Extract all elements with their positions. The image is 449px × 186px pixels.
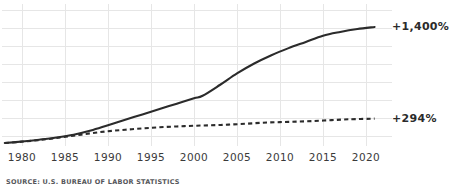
- series-line-dashed: [5, 119, 375, 143]
- x-axis-tick-label: 2010: [266, 151, 294, 163]
- x-axis-tick-label: 2005: [223, 151, 251, 163]
- x-axis-tick-label: 1985: [51, 151, 79, 163]
- x-axis-tick-label: 1980: [8, 151, 36, 163]
- x-axis-tick-label: 2000: [180, 151, 208, 163]
- x-axis-tick-label: 1990: [94, 151, 122, 163]
- x-axis-tick-label: 1995: [137, 151, 165, 163]
- x-axis-tick-label: 2020: [352, 151, 380, 163]
- series-end-label: +1,400%: [392, 20, 449, 33]
- source-note: SOURCE: U.S. BUREAU OF LABOR STATISTICS: [6, 178, 180, 186]
- x-axis-tick-label: 2015: [309, 151, 337, 163]
- series-end-label: +294%: [392, 112, 437, 125]
